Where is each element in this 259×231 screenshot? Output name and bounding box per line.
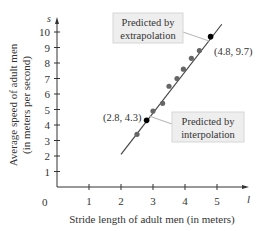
x-tick-label: 4 xyxy=(182,195,188,207)
extrapolation-point-label: (4.8, 9.7) xyxy=(214,46,253,58)
data-point xyxy=(166,84,171,89)
y-axis-arrow-icon xyxy=(55,17,59,24)
y-tick-label: 7 xyxy=(45,73,51,85)
extrapolation-leader xyxy=(183,32,209,41)
chart: 12345678910 12345 s l 0 Stride length of… xyxy=(0,0,259,231)
x-tick-label: 1 xyxy=(86,195,92,207)
data-point xyxy=(160,101,165,106)
x-tick-label: 3 xyxy=(150,195,156,207)
svg-text:Predicted by: Predicted by xyxy=(122,17,176,28)
svg-text:interpolation: interpolation xyxy=(181,129,235,140)
x-axis-label: Stride length of adult men (in meters) xyxy=(69,213,235,226)
x-tick-label: 2 xyxy=(118,195,124,207)
y-tick-label: 8 xyxy=(45,57,51,69)
y-tick-label: 9 xyxy=(45,42,51,54)
x-tick-label: 5 xyxy=(214,195,220,207)
y-tick-label: 4 xyxy=(45,119,51,131)
highlighted-point xyxy=(208,34,214,40)
y-tick-label: 6 xyxy=(45,88,51,100)
interpolation-leader xyxy=(149,116,172,124)
svg-text:extrapolation: extrapolation xyxy=(120,30,176,41)
y-axis-symbol: s xyxy=(47,13,51,24)
data-point xyxy=(197,48,202,53)
highlighted-point xyxy=(144,118,150,124)
origin-label: 0 xyxy=(42,196,48,208)
data-point xyxy=(174,76,179,81)
y-tick-label: 2 xyxy=(45,150,51,162)
data-point xyxy=(134,132,139,137)
interpolation-point-label: (2.8, 4.3) xyxy=(103,112,142,124)
x-axis-arrow-icon xyxy=(242,185,249,189)
svg-text:Predicted by: Predicted by xyxy=(182,116,236,127)
data-point xyxy=(150,108,155,113)
x-axis-symbol: l xyxy=(247,193,250,205)
data-point xyxy=(181,67,186,72)
data-point xyxy=(189,56,194,61)
y-tick-label: 1 xyxy=(45,166,51,178)
y-tick-label: 5 xyxy=(45,104,51,116)
extrapolation-annotation: Predicted by extrapolation xyxy=(113,13,183,43)
y-axis-label-line2: (in meters per second) xyxy=(20,56,33,154)
y-axis-label-line1: Average speed of adult men xyxy=(7,43,19,166)
y-tick-label: 3 xyxy=(45,135,51,147)
interpolation-annotation: Predicted by interpolation xyxy=(172,112,244,142)
y-tick-label: 10 xyxy=(39,26,51,38)
